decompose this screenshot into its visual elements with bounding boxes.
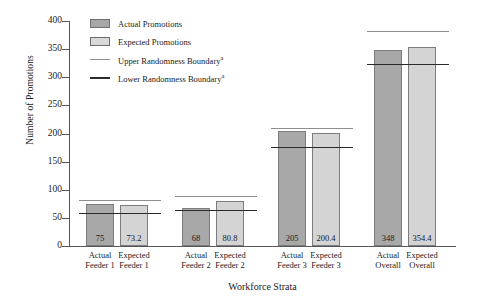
legend-item[interactable]: Actual Promotions	[90, 16, 224, 31]
y-axis-tick-mark	[62, 77, 69, 78]
legend-item-label: Upper Randomness Boundarya	[118, 54, 223, 66]
upper-randomness-boundary-line	[367, 31, 449, 32]
lower-randomness-boundary-line	[367, 64, 449, 65]
legend-footnote-marker: a	[220, 54, 223, 61]
legend-footnote-marker: a	[221, 72, 224, 79]
y-axis-tick-mark	[62, 134, 69, 135]
bar-value-label: 205	[278, 234, 306, 243]
lower-randomness-boundary-line	[79, 213, 161, 214]
legend-item[interactable]: Upper Randomness Boundarya	[90, 52, 224, 67]
chart-legend: Actual PromotionsExpected PromotionsUppe…	[90, 16, 224, 88]
legend-item[interactable]: Expected Promotions	[90, 34, 224, 49]
x-axis-category-label-line: Expected	[298, 250, 354, 260]
y-axis-tick-label: 50	[20, 213, 62, 223]
x-axis-category-label: ExpectedFeeder 3	[298, 250, 354, 271]
y-axis-tick-mark	[62, 21, 69, 22]
y-axis-tick-label: 0	[20, 241, 62, 251]
x-axis-category-label: ExpectedFeeder 1	[106, 250, 162, 271]
x-axis-category-label-line: Overall	[394, 260, 450, 270]
legend-swatch-icon	[90, 19, 110, 28]
upper-randomness-boundary-line	[175, 196, 257, 197]
legend-item-label: Actual Promotions	[118, 19, 182, 29]
y-axis-tick-label: 200	[20, 129, 62, 139]
x-axis-category-label-line: Expected	[202, 250, 258, 260]
y-axis-tick-label: 100	[20, 185, 62, 195]
x-axis-category-label-line: Expected	[394, 250, 450, 260]
y-axis-tick-mark	[62, 105, 69, 106]
promotions-bar-chart: Number of Promotions 4003503002502001501…	[0, 0, 487, 303]
legend-item-label: Lower Randomness Boundarya	[118, 72, 224, 84]
y-axis-tick-mark	[62, 190, 69, 191]
y-axis-tick-label: 350	[20, 44, 62, 54]
bar-value-label: 68	[182, 234, 210, 243]
bar-value-label: 80.8	[216, 234, 244, 243]
bar-value-label: 354.4	[408, 234, 436, 243]
legend-line-icon	[90, 77, 110, 79]
y-axis-ticks: 400350300250200150100500	[0, 0, 69, 303]
y-axis-tick-mark	[62, 162, 69, 163]
y-axis-tick-label: 250	[20, 101, 62, 111]
x-axis-category-label-line: Feeder 3	[298, 260, 354, 270]
y-axis-tick-label: 300	[20, 73, 62, 83]
bar-value-label: 73.2	[120, 234, 148, 243]
y-axis-tick-label: 400	[20, 16, 62, 26]
x-axis-line	[69, 246, 456, 247]
x-axis-category-label: ExpectedFeeder 2	[202, 250, 258, 271]
x-axis-category-label-line: Feeder 2	[202, 260, 258, 270]
bar-value-label: 348	[374, 234, 402, 243]
x-axis-category-label-line: Feeder 1	[106, 260, 162, 270]
lower-randomness-boundary-line	[271, 147, 353, 148]
bar-actual-overall[interactable]	[374, 50, 402, 246]
legend-swatch-icon	[90, 37, 110, 46]
legend-item[interactable]: Lower Randomness Boundarya	[90, 70, 224, 85]
lower-randomness-boundary-line	[175, 210, 257, 211]
upper-randomness-boundary-line	[271, 128, 353, 129]
legend-item-label: Expected Promotions	[118, 37, 191, 47]
y-axis-tick-mark	[62, 49, 69, 50]
x-axis-title: Workforce Strata	[69, 281, 456, 292]
y-axis-tick-mark	[62, 246, 69, 247]
x-axis-category-label-line: Expected	[106, 250, 162, 260]
upper-randomness-boundary-line	[79, 200, 161, 201]
bar-value-label: 75	[86, 234, 114, 243]
legend-line-icon	[90, 59, 110, 60]
y-axis-tick-label: 150	[20, 157, 62, 167]
bar-value-label: 200.4	[312, 234, 340, 243]
y-axis-tick-mark	[62, 218, 69, 219]
bar-expected-overall[interactable]	[408, 47, 436, 246]
bar-expected-feeder-3[interactable]	[312, 133, 340, 246]
x-axis-category-label: ExpectedOverall	[394, 250, 450, 271]
